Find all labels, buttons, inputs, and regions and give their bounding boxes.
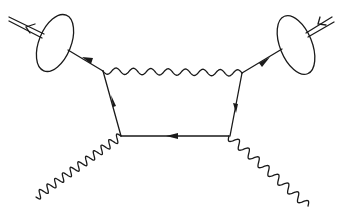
box-bottom-arrow-icon (166, 133, 178, 139)
quark-right-line (242, 49, 282, 73)
quark-left-arrow-icon (82, 57, 93, 64)
quark-left-line (68, 50, 103, 71)
hadron-left-blob (29, 9, 81, 77)
hadron-right (270, 10, 334, 79)
box-right-arrow-icon (233, 103, 238, 113)
gluon-wavy-line (103, 68, 242, 76)
hadron-right-blob (270, 10, 323, 79)
box-left-line (103, 71, 121, 136)
hadron-left-line-2 (9, 21, 42, 38)
photon-right-wavy-line (228, 136, 308, 206)
hadron-left (9, 9, 81, 77)
hadron-left-line-1 (9, 17, 44, 34)
photon-left-wavy-line (36, 134, 121, 199)
feynman-diagram (0, 0, 339, 215)
